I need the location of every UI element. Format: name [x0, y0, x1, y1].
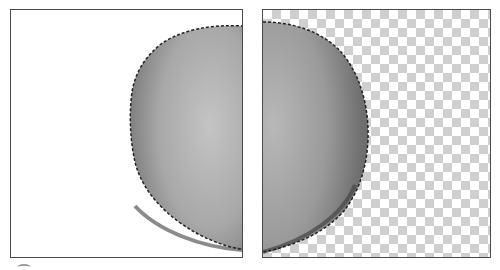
panel-extracted	[262, 9, 491, 258]
panel-original	[10, 9, 243, 258]
caption-marker-icon	[17, 264, 31, 270]
sphere-object	[263, 22, 368, 252]
sphere-selection-left	[11, 10, 243, 258]
sphere-selection-right	[263, 10, 491, 258]
